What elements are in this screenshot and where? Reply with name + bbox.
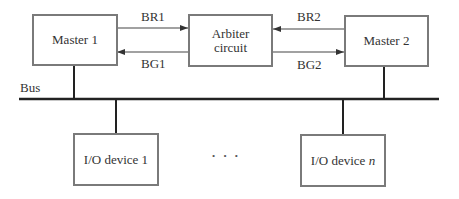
br2-label: BR2 — [297, 9, 321, 25]
arbiter-label-line1: Arbiter — [212, 27, 250, 41]
arbiter-label-line2: circuit — [214, 41, 247, 55]
io-device-1-label: I/O device 1 — [84, 153, 148, 167]
ellipsis: • • • — [212, 151, 241, 161]
bus-label: Bus — [20, 80, 40, 96]
io-device-n-prefix: I/O device — [311, 153, 369, 168]
io-device-n-box: I/O device n — [300, 134, 386, 187]
master2-box: Master 2 — [344, 15, 429, 67]
bg1-label: BG1 — [141, 56, 166, 72]
br1-label: BR1 — [141, 9, 165, 25]
bg2-label: BG2 — [297, 57, 322, 73]
io-device-n-label: I/O device n — [311, 154, 375, 168]
master1-label: Master 1 — [52, 33, 98, 47]
master1-box: Master 1 — [32, 14, 118, 66]
arbiter-box: Arbiter circuit — [188, 14, 273, 67]
io-device-1-box: I/O device 1 — [73, 133, 159, 186]
master2-label: Master 2 — [364, 34, 410, 48]
io-device-n-variable: n — [369, 153, 376, 168]
